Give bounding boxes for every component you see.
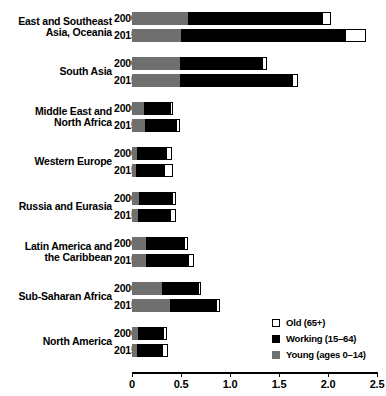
bar-segment-working <box>136 164 164 177</box>
stacked-bar <box>132 29 366 42</box>
bar-row: 2015 <box>0 117 386 134</box>
bar-segment-working <box>137 147 166 160</box>
bar-segment-old <box>172 192 176 205</box>
x-axis-tick-label: 2.5 <box>357 378 386 390</box>
bar-segment-young <box>132 57 180 70</box>
bar-segment-old <box>198 282 201 295</box>
x-axis-tick-label: 0 <box>112 378 152 390</box>
legend-swatch-young-icon <box>272 351 280 359</box>
bar-segment-old <box>345 29 367 42</box>
x-axis-tick <box>132 372 133 377</box>
stacked-bar <box>132 57 267 70</box>
bar-row: 2000 <box>0 235 386 252</box>
bar-segment-old <box>176 119 180 132</box>
bar-segment-old <box>170 209 176 222</box>
bar-row: 2000 <box>0 100 386 117</box>
bar-segment-old <box>170 102 173 115</box>
bar-segment-working <box>144 102 170 115</box>
stacked-bar <box>132 237 188 250</box>
bar-segment-old <box>216 299 220 312</box>
bar-group: Middle East andNorth Africa20002015 <box>0 100 386 134</box>
bar-row: 2000 <box>0 280 386 297</box>
bar-segment-old <box>166 147 172 160</box>
bar-segment-old <box>262 57 267 70</box>
bar-segment-young <box>132 299 170 312</box>
x-axis-tick-label: 0.5 <box>161 378 201 390</box>
bar-row: 2015 <box>0 297 386 314</box>
bar-row: 2015 <box>0 27 386 44</box>
x-axis-line <box>132 372 377 374</box>
stacked-bar <box>132 344 168 357</box>
stacked-bar <box>132 282 201 295</box>
stacked-bar <box>132 299 220 312</box>
bar-row: 2015 <box>0 162 386 179</box>
stacked-bar <box>132 74 298 87</box>
x-axis-tick <box>377 372 378 377</box>
bar-segment-young <box>132 74 180 87</box>
legend-swatch-old-icon <box>272 319 280 327</box>
bar-segment-young <box>132 29 181 42</box>
stacked-bar <box>132 102 173 115</box>
bar-segment-working <box>170 299 216 312</box>
bar-segment-young <box>132 102 144 115</box>
x-axis-tick <box>181 372 182 377</box>
stacked-bar <box>132 327 167 340</box>
bar-segment-old <box>184 237 188 250</box>
bar-row: 2000 <box>0 190 386 207</box>
bar-segment-working <box>146 237 184 250</box>
bar-segment-old <box>292 74 298 87</box>
x-axis-tick-label: 2.0 <box>308 378 348 390</box>
bar-row: 2000 <box>0 55 386 72</box>
bar-group: South Asia20002015 <box>0 55 386 89</box>
bar-segment-working <box>188 12 322 25</box>
bar-row: 2015 <box>0 252 386 269</box>
legend-label: Young (ages 0–14) <box>286 348 366 362</box>
bar-row: 2000 <box>0 145 386 162</box>
bar-segment-old <box>164 164 173 177</box>
bar-segment-young <box>132 237 146 250</box>
stacked-bar <box>132 147 172 160</box>
bar-group: Sub-Saharan Africa20002015 <box>0 280 386 314</box>
stacked-bar <box>132 209 176 222</box>
stacked-bar <box>132 254 194 267</box>
population-age-structure-chart: East and SoutheastAsia, Oceania20002015S… <box>0 0 386 396</box>
stacked-bar <box>132 12 331 25</box>
x-axis-tick <box>328 372 329 377</box>
legend-label: Old (65+) <box>286 316 325 330</box>
legend-label: Working (15–64) <box>286 332 356 346</box>
x-axis-tick-label: 1.5 <box>259 378 299 390</box>
bar-group: Latin America andthe Caribbean20002015 <box>0 235 386 269</box>
x-axis-tick-label: 1.0 <box>210 378 250 390</box>
bar-segment-working <box>138 209 170 222</box>
bar-segment-old <box>162 344 168 357</box>
stacked-bar <box>132 192 176 205</box>
bar-group: Western Europe20002015 <box>0 145 386 179</box>
bar-segment-working <box>145 119 176 132</box>
legend-swatch-working-icon <box>272 335 280 343</box>
bar-row: 2015 <box>0 72 386 89</box>
bar-segment-working <box>146 254 188 267</box>
bar-segment-working <box>139 192 172 205</box>
bar-row: 2000 <box>0 10 386 27</box>
bar-segment-old <box>163 327 167 340</box>
bar-group: East and SoutheastAsia, Oceania20002015 <box>0 10 386 44</box>
bar-segment-old <box>188 254 194 267</box>
plot-area: East and SoutheastAsia, Oceania20002015S… <box>0 0 386 396</box>
bar-segment-working <box>162 282 197 295</box>
bar-segment-working <box>180 74 292 87</box>
bar-segment-young <box>132 282 162 295</box>
bar-segment-young <box>132 119 145 132</box>
bar-segment-young <box>132 12 188 25</box>
legend: Old (65+)Working (15–64)Young (ages 0–14… <box>272 316 386 364</box>
bar-segment-working <box>137 344 162 357</box>
bar-segment-working <box>181 29 345 42</box>
bar-segment-working <box>138 327 163 340</box>
bar-row: 2015 <box>0 207 386 224</box>
bar-segment-young <box>132 192 139 205</box>
bar-segment-working <box>180 57 262 70</box>
stacked-bar <box>132 164 173 177</box>
x-axis-tick <box>279 372 280 377</box>
stacked-bar <box>132 119 180 132</box>
bar-group: Russia and Eurasia20002015 <box>0 190 386 224</box>
bar-segment-old <box>322 12 331 25</box>
